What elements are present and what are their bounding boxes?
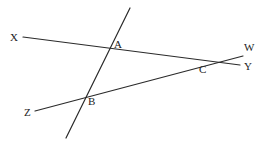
geometry-diagram: X Y Z W A B C (0, 0, 266, 146)
label-b: B (88, 95, 95, 107)
label-x: X (10, 31, 18, 43)
label-w: W (244, 41, 255, 53)
label-a: A (114, 38, 122, 50)
label-z: Z (24, 106, 31, 118)
label-y: Y (244, 60, 252, 72)
line-ab (66, 8, 130, 138)
label-c: C (199, 63, 206, 75)
line-zw (35, 56, 243, 111)
line-xy (23, 37, 240, 65)
